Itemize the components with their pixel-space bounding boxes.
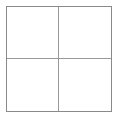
canvas [0, 0, 119, 119]
grid-body [7, 7, 111, 111]
grid-cell-top-right[interactable] [59, 7, 111, 59]
grid-cell-top-right-label [59, 7, 111, 58]
grid-cell-bottom-left[interactable] [7, 59, 59, 111]
grid-cell-top-left[interactable] [7, 7, 59, 59]
grid-cell-top-left-label [7, 7, 58, 58]
grid-cell-bottom-right[interactable] [59, 59, 111, 111]
grid-cell-bottom-left-label [7, 59, 58, 111]
grid-cell-bottom-right-label [59, 59, 111, 111]
grid-frame [6, 6, 112, 112]
